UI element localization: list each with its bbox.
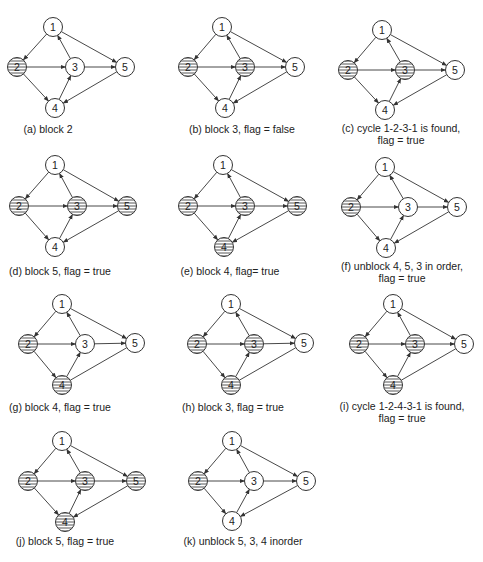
edge-2-to-4 — [23, 74, 48, 101]
edge-4-to-3 — [69, 490, 81, 514]
panel-g: 12345(g) block 4, flag = true — [9, 295, 144, 414]
node-label: 2 — [185, 61, 191, 73]
node-label: 1 — [50, 21, 56, 33]
edge-3-to-1 — [227, 35, 241, 59]
node-label: 4 — [228, 379, 234, 391]
panel-caption: (j) block 5, flag = true — [16, 535, 114, 547]
node-4: 4 — [216, 99, 235, 118]
node-label: 2 — [25, 475, 31, 487]
node-label: 5 — [452, 64, 458, 76]
node-2-blocked: 2 — [350, 335, 369, 354]
node-label: 1 — [220, 159, 226, 171]
node-2-blocked: 2 — [339, 61, 358, 80]
edge-2-to-4 — [34, 351, 56, 377]
edge-1-to-2 — [34, 311, 56, 337]
figure-canvas: 12345(a) block 212345(b) block 3, flag =… — [0, 0, 483, 562]
edge-1-to-2 — [354, 37, 376, 63]
node-label: 5 — [294, 200, 300, 212]
node-label: 3 — [82, 338, 88, 350]
edge-3-to-5 — [263, 343, 294, 344]
node-label: 3 — [242, 61, 248, 73]
node-label: 4 — [390, 379, 396, 391]
node-3-blocked: 3 — [76, 472, 95, 491]
edge-4-to-3 — [59, 76, 71, 100]
edge-1-to-2 — [194, 172, 217, 199]
node-5: 5 — [126, 334, 145, 353]
node-label: 4 — [52, 102, 58, 114]
edge-4-to-3 — [236, 352, 250, 376]
node-label: 3 — [82, 475, 88, 487]
node-1: 1 — [222, 295, 241, 314]
node-5-blocked: 5 — [288, 197, 307, 216]
edge-5-to-4 — [73, 486, 128, 517]
edge-3-to-1 — [237, 449, 250, 472]
edge-5-to-4 — [232, 211, 288, 243]
panel-f: 12345(f) unblock 4, 5, 3 in order,flag =… — [341, 158, 466, 285]
node-label: 3 — [242, 200, 248, 212]
edge-1-to-2 — [204, 448, 226, 474]
node-1: 1 — [44, 18, 63, 37]
edge-1-to-2 — [34, 448, 56, 474]
edge-3-to-1 — [390, 175, 404, 199]
node-2-blocked: 2 — [179, 58, 198, 77]
node-label: 4 — [383, 242, 389, 254]
node-2-blocked: 2 — [342, 198, 361, 217]
panel-caption: (h) block 3, flag = true — [182, 401, 284, 413]
node-label: 3 — [405, 201, 411, 213]
node-label: 4 — [52, 241, 58, 253]
node-5: 5 — [455, 335, 474, 354]
panel-caption: flag = true — [379, 272, 426, 284]
node-label: 3 — [402, 64, 408, 76]
node-4-blocked: 4 — [222, 376, 241, 395]
node-label: 5 — [461, 338, 467, 350]
edge-2-to-4 — [25, 213, 48, 240]
edge-5-to-4 — [70, 348, 127, 381]
edge-4-to-3 — [390, 215, 403, 239]
edge-1-to-2 — [203, 311, 225, 337]
edge-2-to-4 — [365, 351, 387, 377]
node-4: 4 — [46, 238, 65, 257]
panel-caption: (e) block 4, flag= true — [181, 265, 280, 277]
edge-2-to-4 — [203, 351, 225, 377]
node-label: 1 — [228, 298, 234, 310]
node-3-blocked: 3 — [236, 197, 255, 216]
edge-3-to-1 — [58, 35, 71, 58]
node-1: 1 — [214, 156, 233, 175]
edge-1-to-5 — [393, 172, 448, 203]
node-5: 5 — [116, 58, 135, 77]
edge-4-to-3 — [229, 76, 241, 100]
panel-caption: (c) cycle 1-2-3-1 is found, — [342, 122, 460, 134]
node-label: 5 — [303, 475, 309, 487]
panel-caption: (b) block 3, flag = false — [189, 123, 295, 135]
edge-1-to-5 — [390, 35, 446, 66]
node-4: 4 — [376, 101, 395, 120]
node-1: 1 — [376, 158, 395, 177]
node-1: 1 — [213, 18, 232, 37]
edge-2-to-4 — [194, 74, 218, 101]
edge-3-to-1 — [59, 173, 72, 197]
node-4: 4 — [377, 239, 396, 258]
node-1: 1 — [384, 295, 403, 314]
panel-caption: (g) block 4, flag = true — [9, 401, 111, 413]
edge-1-to-2 — [194, 34, 216, 60]
edge-3-to-1 — [398, 312, 411, 335]
node-5-blocked: 5 — [127, 472, 146, 491]
edge-4-to-3 — [228, 214, 240, 238]
node-4-blocked: 4 — [53, 376, 72, 395]
node-label: 2 — [345, 64, 351, 76]
node-label: 2 — [194, 338, 200, 350]
node-label: 1 — [59, 298, 65, 310]
node-label: 4 — [59, 379, 65, 391]
node-3: 3 — [76, 335, 95, 354]
node-label: 5 — [292, 61, 298, 73]
panel-caption: (i) cycle 1-2-4-3-1 is found, — [340, 400, 465, 412]
node-4-blocked: 4 — [215, 238, 234, 257]
node-2-blocked: 2 — [179, 197, 198, 216]
edge-4-to-3 — [397, 352, 410, 376]
node-label: 2 — [16, 200, 22, 212]
panel-caption: flag = true — [379, 412, 426, 424]
panel-caption: (f) unblock 4, 5, 3 in order, — [341, 260, 463, 272]
node-label: 2 — [348, 201, 354, 213]
node-label: 4 — [229, 515, 235, 527]
node-3-blocked: 3 — [236, 58, 255, 77]
